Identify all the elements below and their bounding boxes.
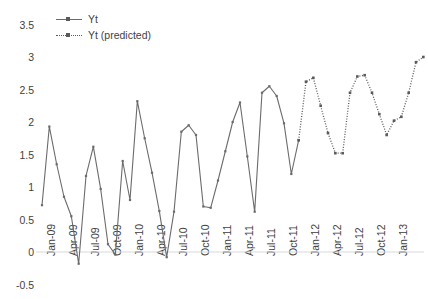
data-point-marker <box>422 56 425 59</box>
data-point-marker <box>261 92 263 94</box>
data-point-marker <box>393 119 396 122</box>
data-point-marker <box>224 150 226 152</box>
data-point-marker <box>166 256 168 258</box>
data-point-marker <box>195 134 197 136</box>
data-point-marker <box>276 95 278 97</box>
data-point-marker <box>400 116 403 119</box>
data-point-marker <box>319 104 322 107</box>
data-point-marker <box>122 160 124 162</box>
plot-area <box>0 0 428 299</box>
data-point-marker <box>305 80 308 83</box>
data-point-marker <box>334 152 337 155</box>
data-point-marker <box>297 139 300 142</box>
data-point-marker <box>385 134 388 137</box>
data-point-marker <box>180 131 182 133</box>
data-point-marker <box>254 211 256 213</box>
data-point-marker <box>202 205 204 207</box>
data-point-marker <box>363 74 366 77</box>
data-point-marker <box>48 125 50 127</box>
series-line-yt <box>42 86 299 263</box>
data-point-marker <box>217 179 219 181</box>
data-point-marker <box>70 215 72 217</box>
data-point-marker <box>210 207 212 209</box>
data-point-marker <box>144 137 146 139</box>
data-point-marker <box>129 199 131 201</box>
data-point-marker <box>158 210 160 212</box>
data-point-marker <box>107 243 109 245</box>
data-point-marker <box>188 124 190 126</box>
data-point-marker <box>327 132 330 135</box>
data-point-marker <box>371 91 374 94</box>
data-point-marker <box>341 152 344 155</box>
data-point-marker <box>151 172 153 174</box>
data-point-marker <box>378 113 381 116</box>
data-point-marker <box>312 77 315 80</box>
data-point-marker <box>63 196 65 198</box>
data-point-marker <box>173 211 175 213</box>
series-line-yt-predicted <box>299 57 424 153</box>
data-point-marker <box>268 85 270 87</box>
data-point-marker <box>85 175 87 177</box>
data-point-marker <box>246 155 248 157</box>
data-point-marker <box>407 91 410 94</box>
data-point-marker <box>92 146 94 148</box>
data-point-marker <box>41 204 43 206</box>
data-point-marker <box>232 121 234 123</box>
data-point-marker <box>114 254 116 256</box>
data-point-marker <box>283 122 285 124</box>
data-point-marker <box>415 61 418 64</box>
data-point-marker <box>136 100 138 102</box>
data-point-marker <box>56 163 58 165</box>
data-point-marker <box>100 188 102 190</box>
data-point-marker <box>78 263 80 265</box>
data-point-marker <box>290 173 292 175</box>
data-point-marker <box>349 91 352 94</box>
data-point-marker <box>356 75 359 78</box>
data-point-marker <box>239 101 241 103</box>
time-series-chart: Yt Yt (predicted) -0.500.511.522.533.5 J… <box>0 0 428 299</box>
